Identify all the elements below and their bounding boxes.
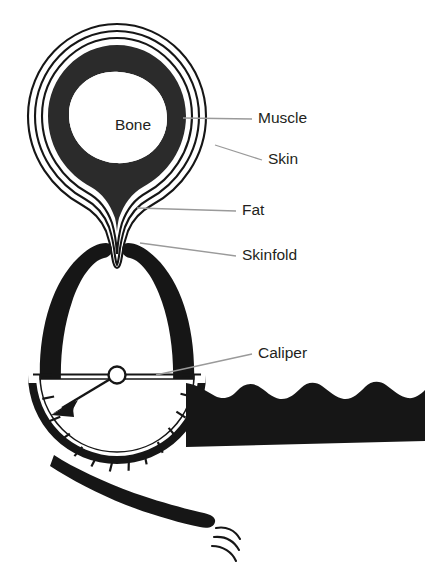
skinfold-label: Skinfold	[242, 246, 297, 263]
skinfold-caliper-diagram: Bone	[0, 0, 425, 572]
caliper-label: Caliper	[258, 344, 307, 361]
fat-label: Fat	[242, 201, 265, 218]
skin-label: Skin	[268, 150, 298, 167]
caliper-needle-hub	[109, 367, 126, 384]
bone-label: Bone	[115, 116, 151, 133]
diagram-canvas: Bone	[0, 0, 425, 572]
muscle-label: Muscle	[258, 109, 307, 126]
